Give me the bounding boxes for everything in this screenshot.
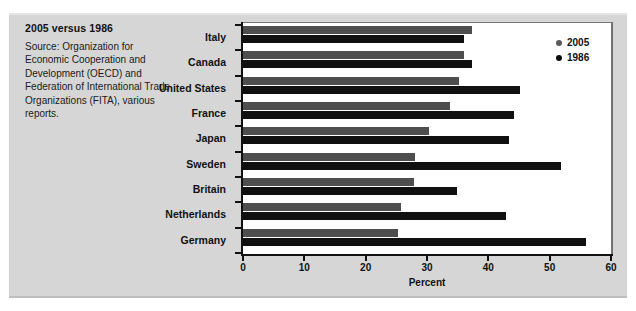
bar-row [243, 126, 612, 151]
bar-2005 [243, 102, 450, 110]
bar-1986 [243, 60, 472, 68]
bar-row [243, 177, 612, 202]
bar-1986 [243, 86, 520, 94]
y-axis-tick [235, 227, 242, 229]
y-axis-label: Netherlands [100, 202, 235, 227]
bar-1986 [243, 136, 509, 144]
bar-1986 [243, 35, 464, 43]
x-axis-tick-label: 20 [360, 262, 371, 273]
panel-top-edge [9, 13, 627, 15]
bar-2005 [243, 51, 464, 59]
chart-legend: 20051986 [556, 36, 589, 66]
bar-2005 [243, 77, 459, 85]
y-axis-tick [235, 75, 242, 77]
y-axis-tick [235, 125, 242, 127]
y-axis-label: France [100, 101, 235, 126]
bar-row [243, 152, 612, 177]
y-axis-labels: ItalyCanadaUnited StatesFranceJapanSwede… [100, 25, 235, 253]
y-axis-tick [235, 252, 242, 254]
legend-item: 1986 [556, 51, 589, 64]
y-axis-label: Canada [100, 50, 235, 75]
x-axis-title: Percent [409, 277, 446, 288]
x-axis-tick [487, 256, 489, 261]
y-axis-label: Italy [100, 25, 235, 50]
x-axis-tick [610, 256, 612, 261]
x-axis-tick-label: 10 [299, 262, 310, 273]
legend-label: 1986 [567, 53, 589, 63]
y-axis-tick [235, 24, 242, 26]
legend-item: 2005 [556, 36, 589, 49]
bar-row [243, 228, 612, 253]
x-axis-tick [426, 256, 428, 261]
y-axis-tick [235, 100, 242, 102]
plot-frame-top [241, 22, 612, 23]
bar-2005 [243, 203, 401, 211]
y-axis-label: Germany [100, 228, 235, 253]
y-axis-tick [235, 49, 242, 51]
legend-swatch-icon [556, 55, 562, 61]
y-axis-label: United States [100, 76, 235, 101]
bar-1986 [243, 162, 561, 170]
x-axis-tick-label: 60 [605, 262, 616, 273]
x-axis-tick [242, 256, 244, 261]
bar-row [243, 76, 612, 101]
bar-1986 [243, 238, 586, 246]
bar-1986 [243, 187, 457, 195]
legend-label: 2005 [567, 38, 589, 48]
x-axis-tick [365, 256, 367, 261]
y-axis-tick [235, 201, 242, 203]
bar-2005 [243, 26, 472, 34]
y-axis-tick [235, 151, 242, 153]
x-axis-tick [303, 256, 305, 261]
bar-row [243, 202, 612, 227]
bar-2005 [243, 127, 429, 135]
x-axis-tick-label: 50 [544, 262, 555, 273]
y-axis-tick [235, 176, 242, 178]
x-axis-tick-label: 40 [483, 262, 494, 273]
x-axis-tick [549, 256, 551, 261]
bar-2005 [243, 229, 398, 237]
x-axis-tick-label: 30 [421, 262, 432, 273]
y-axis-label: Sweden [100, 152, 235, 177]
bar-2005 [243, 178, 414, 186]
bar-2005 [243, 153, 415, 161]
panel-bottom-edge [9, 296, 627, 298]
y-axis-label: Britain [100, 177, 235, 202]
legend-swatch-icon [556, 40, 562, 46]
bar-row [243, 101, 612, 126]
y-axis-label: Japan [100, 126, 235, 151]
chart-screenshot: 2005 versus 1986 Source: Organization fo… [0, 0, 636, 311]
bar-1986 [243, 111, 514, 119]
bar-1986 [243, 212, 506, 220]
x-axis-tick-label: 0 [240, 262, 246, 273]
